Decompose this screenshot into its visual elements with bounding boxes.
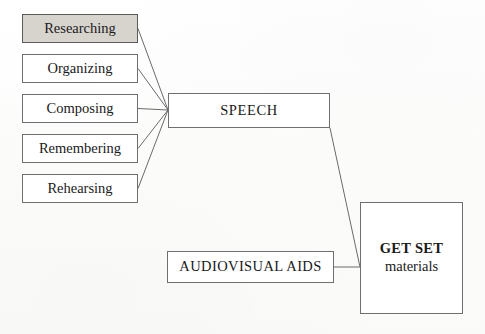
audiovisual-aids-label: AUDIOVISUAL AIDS <box>179 259 321 275</box>
stage-node-remembering[interactable]: Remembering <box>22 134 138 163</box>
stage-node-composing[interactable]: Composing <box>22 94 138 123</box>
stage-node-rehearsing[interactable]: Rehearsing <box>22 174 138 203</box>
stage-node-organizing[interactable]: Organizing <box>22 54 138 83</box>
get-set-materials-node[interactable]: GET SET materials <box>360 202 463 314</box>
connector-researching-to-speech <box>138 29 168 111</box>
connector-speech-to-getset <box>330 128 360 267</box>
connector-remembering-to-speech <box>138 110 168 149</box>
speech-node[interactable]: SPEECH <box>168 93 330 128</box>
get-set-subtitle: materials <box>385 259 438 275</box>
audiovisual-aids-node[interactable]: AUDIOVISUAL AIDS <box>167 251 334 283</box>
stage-label-organizing: Organizing <box>48 61 113 77</box>
get-set-title: GET SET <box>380 241 444 257</box>
stage-label-remembering: Remembering <box>39 141 121 157</box>
connector-composing-to-speech <box>138 109 168 111</box>
stage-node-researching[interactable]: Researching <box>22 14 138 43</box>
stage-label-researching: Researching <box>44 21 116 37</box>
connector-organizing-to-speech <box>138 69 168 111</box>
stage-label-composing: Composing <box>47 101 114 117</box>
stage-label-rehearsing: Rehearsing <box>47 181 112 197</box>
diagram-canvas: Researching Organizing Composing Remembe… <box>0 0 485 334</box>
speech-label: SPEECH <box>220 103 278 119</box>
connector-rehearsing-to-speech <box>138 110 168 189</box>
